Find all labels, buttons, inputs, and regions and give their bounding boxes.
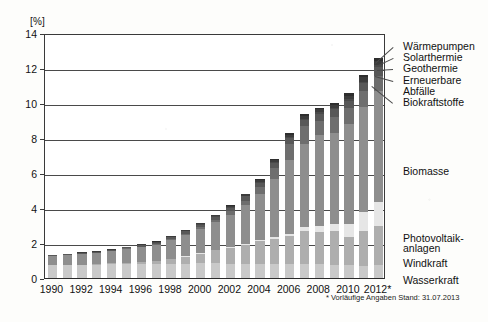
bar-segment xyxy=(241,205,250,244)
bar-segment xyxy=(152,264,161,278)
bar-column[interactable] xyxy=(344,93,353,278)
bar-column[interactable] xyxy=(92,251,101,278)
bar-segment xyxy=(270,239,279,264)
bar-segment xyxy=(241,264,250,278)
bar-column[interactable] xyxy=(241,194,250,278)
y-axis-tick-label: 6 xyxy=(11,168,37,180)
bar-segment xyxy=(92,253,101,265)
bar-column[interactable] xyxy=(359,75,368,278)
bar-segment xyxy=(315,232,324,264)
bar-column[interactable] xyxy=(122,247,131,278)
bar-segment xyxy=(166,240,175,259)
bar-segment xyxy=(330,117,339,133)
plot-area xyxy=(44,34,385,279)
bar-segment xyxy=(137,247,146,262)
y-axis-tick-mark xyxy=(40,34,44,35)
bar-column[interactable] xyxy=(107,249,116,278)
legend-leader-line xyxy=(377,69,393,71)
bar-column[interactable] xyxy=(166,236,175,278)
bar-column[interactable] xyxy=(226,205,235,278)
legend-label[interactable]: Wasserkraft xyxy=(403,275,459,287)
y-axis-tick-mark xyxy=(40,139,44,140)
y-axis-tick-mark xyxy=(40,209,44,210)
bar-segment xyxy=(270,264,279,278)
bar-segment xyxy=(315,114,324,121)
y-axis-tick-mark xyxy=(40,69,44,70)
bar-segment xyxy=(77,254,86,265)
bar-segment xyxy=(330,265,339,278)
y-axis-unit-label: [%] xyxy=(30,16,45,27)
bar-segment xyxy=(344,237,353,265)
y-axis-tick-mark xyxy=(40,104,44,105)
y-axis-tick-label: 10 xyxy=(11,98,37,110)
y-axis-tick-label: 12 xyxy=(11,63,37,75)
bar-series-group xyxy=(45,35,384,278)
bar-segment xyxy=(255,194,264,240)
bar-column[interactable] xyxy=(77,252,86,278)
bar-segment xyxy=(374,67,383,76)
legend-label[interactable]: Biomasse xyxy=(403,166,449,178)
bar-segment xyxy=(344,124,353,224)
legend-label[interactable]: Windkraft xyxy=(403,258,447,270)
bar-segment xyxy=(285,144,294,160)
bar-segment xyxy=(344,101,353,109)
bar-column[interactable] xyxy=(300,114,309,278)
bar-column[interactable] xyxy=(285,133,294,278)
bar-segment xyxy=(196,229,205,254)
legend-label[interactable]: Geothermie xyxy=(403,63,458,75)
bar-segment xyxy=(255,187,264,194)
bar-segment xyxy=(285,160,294,234)
bar-segment xyxy=(92,265,101,278)
bar-column[interactable] xyxy=(152,241,161,278)
bar-segment xyxy=(285,264,294,278)
bar-column[interactable] xyxy=(330,103,339,278)
bar-segment xyxy=(181,257,190,264)
bar-segment xyxy=(122,264,131,278)
bar-segment xyxy=(300,231,309,264)
footnote: * Vorläufige Angaben Stand: 31.07.2013 xyxy=(326,293,459,302)
bar-segment xyxy=(344,265,353,278)
bar-segment xyxy=(137,264,146,278)
bar-column[interactable] xyxy=(255,179,264,278)
bar-segment xyxy=(330,231,339,264)
bar-column[interactable] xyxy=(181,230,190,278)
bar-segment xyxy=(359,231,368,266)
y-axis-tick-mark xyxy=(40,279,44,280)
bar-segment xyxy=(48,265,57,278)
bar-segment xyxy=(330,224,339,232)
bar-segment xyxy=(226,215,235,247)
bar-segment xyxy=(270,168,279,179)
bar-column[interactable] xyxy=(48,255,57,278)
bar-segment xyxy=(300,264,309,278)
legend-label[interactable]: anlagen xyxy=(403,243,440,255)
bar-segment xyxy=(300,126,309,144)
bar-column[interactable] xyxy=(63,254,72,278)
bar-column[interactable] xyxy=(270,159,279,278)
y-axis-tick-mark xyxy=(40,244,44,245)
bar-segment xyxy=(48,256,57,266)
bar-segment xyxy=(63,255,72,265)
y-axis-tick-label: 14 xyxy=(11,28,37,40)
bar-segment xyxy=(330,133,339,224)
y-axis-tick-label: 8 xyxy=(11,133,37,145)
bar-segment xyxy=(122,249,131,263)
bar-segment xyxy=(285,236,294,264)
bar-segment xyxy=(226,264,235,278)
bar-segment xyxy=(330,109,339,116)
bar-segment xyxy=(107,251,116,264)
bar-segment xyxy=(300,144,309,227)
bar-segment xyxy=(374,202,383,227)
bar-segment xyxy=(196,263,205,278)
bar-segment xyxy=(63,265,72,278)
bar-column[interactable] xyxy=(315,108,324,278)
bar-segment xyxy=(241,245,250,265)
bar-segment xyxy=(255,241,264,264)
bar-column[interactable] xyxy=(196,223,205,278)
bar-segment xyxy=(359,266,368,278)
bar-segment xyxy=(315,264,324,278)
bar-segment xyxy=(211,250,220,263)
legend-label[interactable]: Biokraftstoffe xyxy=(403,97,464,109)
chart-canvas: [%] 02468101214 199019921994199619982000… xyxy=(0,0,488,322)
bar-column[interactable] xyxy=(211,215,220,278)
bar-column[interactable] xyxy=(137,244,146,278)
